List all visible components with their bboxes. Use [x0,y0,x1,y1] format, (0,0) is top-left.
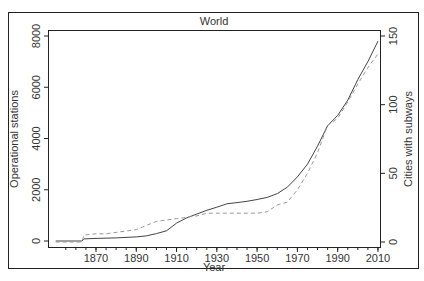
y-right-tick-label: 50 [387,167,399,179]
y-axis-left-label: Operational stations [8,90,20,188]
x-tick-label: 1950 [245,252,269,264]
y-left-tick-label: 0 [30,238,42,244]
x-tick-label: 1910 [164,252,188,264]
chart-title: World [200,15,229,27]
outer-frame [9,13,419,269]
x-axis-label: Year [203,261,226,273]
y-right-tick-label: 0 [387,239,399,245]
y-left-tick-label: 6000 [30,75,42,99]
y-left-tick-label: 8000 [30,24,42,48]
chart: World 18701890191019301950197019902010 0… [0,0,424,281]
x-tick-label: 1990 [325,252,349,264]
y-axis-right-label: Cities with subways [402,91,414,187]
x-tick-label: 1970 [285,252,309,264]
y-right-tick-label: 150 [387,27,399,45]
y-left-tick-label: 4000 [30,126,42,150]
y-left-tick-label: 2000 [30,178,42,202]
y-right-tick-label: 100 [387,95,399,113]
x-tick-label: 1890 [124,252,148,264]
x-tick-label: 2010 [366,252,390,264]
x-tick-label: 1870 [84,252,108,264]
